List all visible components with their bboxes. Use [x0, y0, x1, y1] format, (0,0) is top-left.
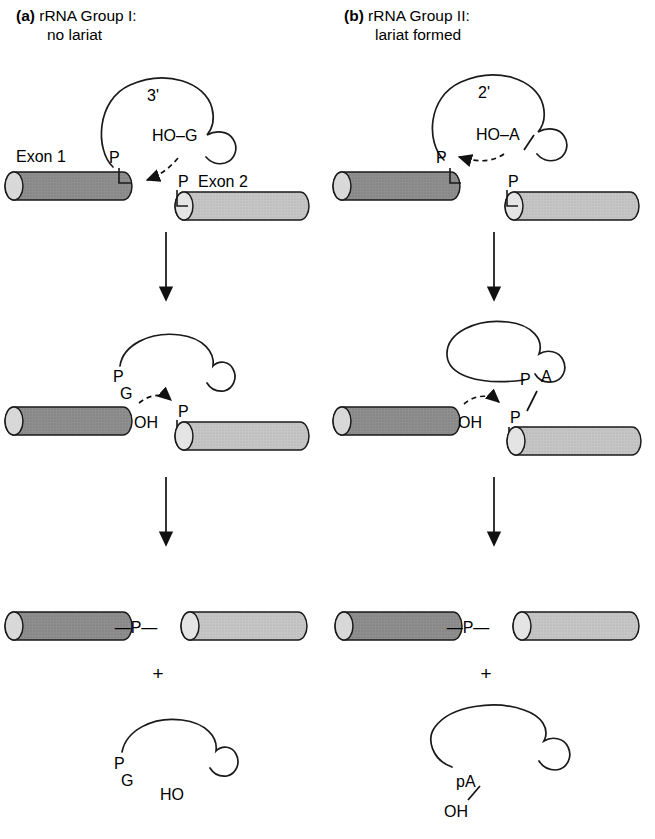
- exon2-stage2: [175, 422, 309, 450]
- exon2-stage3: [181, 612, 307, 640]
- panel-b-lariat-oh: OH: [444, 803, 468, 820]
- exon2-label-stage1: Exon 2: [198, 173, 248, 190]
- panel-a-intron-p-stage2: P: [113, 368, 124, 385]
- panel-b-oh-stage2: OH: [458, 414, 482, 431]
- panel-b-phosphate-right: P: [508, 173, 519, 190]
- panel-b-nucleophile: HO–A: [476, 126, 520, 143]
- exon1-stage3-b: [335, 612, 462, 640]
- panel-b-loop-label: 2': [478, 84, 490, 101]
- panel-b-lariat-branch: pA: [456, 773, 476, 790]
- exon1-label-stage1: Exon 1: [16, 148, 66, 165]
- exon2-stage1: [175, 192, 309, 220]
- panel-a-phosphate-stage2: P: [178, 403, 189, 420]
- attack-arrow-stage2: [139, 395, 171, 403]
- attack-arrow-stage1: [147, 158, 178, 180]
- panel-b: (b) rRNA Group II: lariat formed 2' HO–A…: [328, 0, 655, 839]
- exon2-stage2-b: [507, 427, 641, 455]
- exon1-stage2-b: [333, 407, 460, 435]
- panel-a-released-ho: HO: [160, 786, 184, 803]
- exon1-stage1-b: [333, 172, 460, 200]
- exon2-stage1-b: [505, 192, 639, 220]
- panel-a-phosphate-right: P: [178, 173, 189, 190]
- panel-b-linkage: —P—: [447, 619, 490, 636]
- panel-b-branch-p: P: [520, 371, 531, 388]
- panel-a: (a) rRNA Group I: no lariat 3' HO–G: [0, 0, 327, 839]
- panel-a-nucleophile: HO–G: [152, 127, 197, 144]
- panel-b-phosphate-left: P: [436, 149, 447, 166]
- panel-b-branch-a: A: [541, 368, 552, 385]
- panel-a-released-p: P: [114, 755, 125, 772]
- panel-a-loop-label: 3': [147, 87, 159, 104]
- attack-arrow-stage2-b: [464, 396, 499, 404]
- panel-a-intron-g-stage2: G: [120, 385, 132, 402]
- panel-b-graphics: 2' HO–A P P P A OH P: [328, 0, 655, 839]
- panel-a-phosphate-left: P: [109, 149, 120, 166]
- exon1-stage1: [5, 172, 132, 200]
- panel-a-graphics: 3' HO–G Exon 1 P P Exon 2 P G OH: [0, 0, 327, 839]
- panel-b-plus: +: [480, 663, 491, 684]
- panel-a-linkage: —P—: [115, 619, 158, 636]
- panel-a-oh-stage2: OH: [134, 414, 158, 431]
- attack-arrow-stage1-b: [459, 154, 504, 161]
- panel-a-released-g: G: [121, 772, 133, 789]
- exon1-stage3: [5, 612, 132, 640]
- exon2-stage3-b: [513, 612, 639, 640]
- panel-b-phosphate-stage2: P: [510, 409, 521, 426]
- exon1-stage2: [5, 407, 132, 435]
- panel-a-plus: +: [152, 663, 163, 684]
